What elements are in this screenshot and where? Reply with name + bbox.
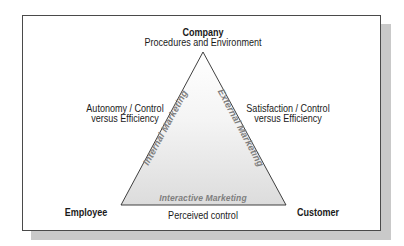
- right-annotation-line2: versus Efficiency: [236, 113, 339, 124]
- vertex-employee-title: Employee: [60, 207, 112, 218]
- vertex-customer-title: Customer: [292, 207, 344, 218]
- vertex-company-subtitle: Procedures and Environment: [139, 37, 268, 48]
- marketing-triangle: [121, 52, 286, 205]
- left-annotation-line2: versus Efficiency: [78, 113, 173, 124]
- edge-label-interactive-marketing: Interactive Marketing: [155, 192, 250, 203]
- bottom-annotation: Perceived control: [160, 210, 246, 221]
